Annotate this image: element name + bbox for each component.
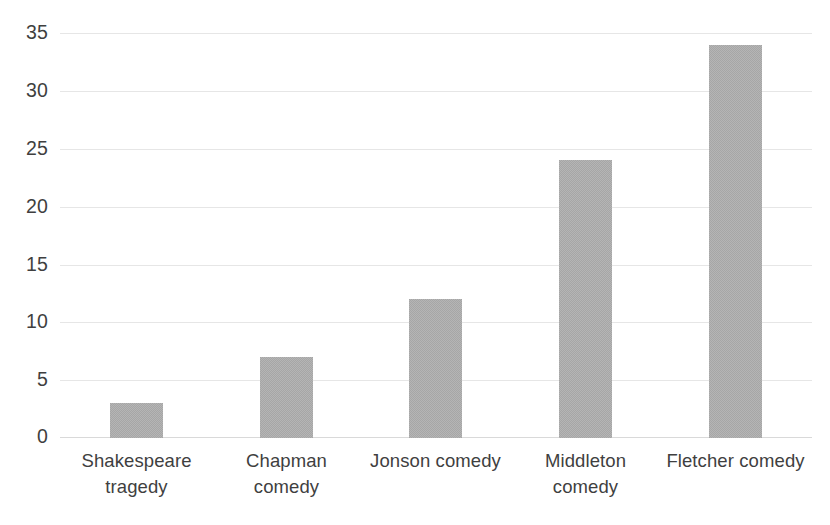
- x-label-middleton-comedy: Middleton comedy: [508, 448, 663, 500]
- x-label-line-2: comedy: [508, 474, 663, 500]
- bar-chapman-comedy[interactable]: [260, 357, 313, 438]
- y-tick-label-10: 10: [0, 312, 48, 332]
- bar-jonson-comedy[interactable]: [409, 299, 462, 438]
- x-label-shakespeare-tragedy: Shakespeare tragedy: [59, 448, 214, 500]
- x-label-line-1: Middleton: [508, 448, 663, 474]
- x-label-line-1: Shakespeare: [59, 448, 214, 474]
- y-tick-label-30: 30: [0, 81, 48, 101]
- bar-chart: 35 30 25 20 15 10 5 0 Shakespeare traged…: [0, 0, 830, 525]
- y-tick-label-20: 20: [0, 197, 48, 217]
- y-tick-label-15: 15: [0, 255, 48, 275]
- bar-shakespeare-tragedy[interactable]: [110, 403, 163, 438]
- y-tick-label-35: 35: [0, 23, 48, 43]
- y-tick-label-0: 0: [0, 427, 48, 447]
- y-tick-label-5: 5: [0, 370, 48, 390]
- x-label-line-1: Fletcher comedy: [658, 448, 813, 474]
- x-label-line-1: Chapman: [209, 448, 364, 474]
- bars-layer: [60, 33, 812, 438]
- x-label-fletcher-comedy: Fletcher comedy: [658, 448, 813, 474]
- x-label-line-2: comedy: [209, 474, 364, 500]
- bar-fletcher-comedy[interactable]: [709, 45, 762, 438]
- y-tick-label-25: 25: [0, 139, 48, 159]
- x-label-line-2: tragedy: [59, 474, 214, 500]
- bar-middleton-comedy[interactable]: [559, 160, 612, 438]
- x-label-jonson-comedy: Jonson comedy: [358, 448, 513, 474]
- x-label-chapman-comedy: Chapman comedy: [209, 448, 364, 500]
- x-axis-labels: Shakespeare tragedy Chapman comedy Jonso…: [60, 448, 812, 518]
- x-label-line-1: Jonson comedy: [358, 448, 513, 474]
